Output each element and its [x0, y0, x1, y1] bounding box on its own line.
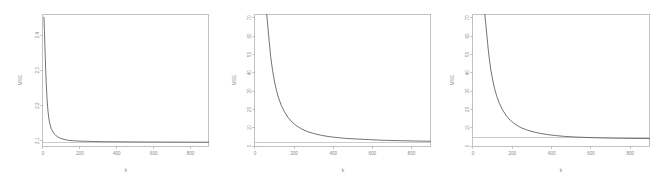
plot-panel-1: 2.12.22.32.4 0200400600800 MSE k: [0, 0, 219, 185]
x-tick-label: 400: [330, 151, 338, 156]
x-tick-label: 400: [113, 151, 121, 156]
plot-svg-2: 010203040506070 0200400600800 MSE k: [219, 0, 438, 185]
y-tick-label: 30: [248, 88, 253, 94]
x-tick-label: 0: [42, 151, 45, 156]
y-tick-label: 70: [248, 15, 253, 21]
plot-1-frame: [43, 14, 209, 146]
y-tick-label: 20: [465, 106, 470, 112]
plot-2-y-axis-label: MSE: [231, 74, 237, 85]
x-tick-label: 400: [548, 151, 556, 156]
plot-3-frame: [473, 14, 650, 146]
plot-3-curve: [484, 14, 649, 139]
plot-3-y-ticks: 010203040506070: [465, 15, 473, 148]
y-tick-label: 40: [248, 70, 253, 76]
plot-1-x-ticks: 0200400600800: [42, 146, 195, 157]
plot-1-y-axis-label: MSE: [17, 74, 23, 85]
y-tick-label: 50: [248, 51, 253, 57]
y-tick-label: 0: [248, 144, 253, 147]
plot-2-curve: [267, 14, 431, 141]
y-tick-label: 2.4: [35, 31, 40, 38]
y-tick-label: 20: [248, 106, 253, 112]
plot-1-curve: [44, 17, 209, 142]
y-tick-label: 2.1: [35, 137, 40, 144]
plot-1-x-axis-label: k: [125, 167, 128, 173]
plot-2-x-axis-label: k: [342, 167, 345, 173]
y-tick-label: 40: [465, 70, 470, 76]
y-tick-label: 10: [248, 125, 253, 131]
y-tick-label: 60: [465, 33, 470, 39]
y-tick-label: 60: [248, 33, 253, 39]
plot-svg-1: 2.12.22.32.4 0200400600800 MSE k: [0, 0, 219, 185]
figure-container: 2.12.22.32.4 0200400600800 MSE k 0102030…: [0, 0, 658, 185]
plot-1-y-ticks: 2.12.22.32.4: [35, 31, 43, 143]
plot-3-y-axis-label: MSE: [449, 74, 455, 85]
x-tick-label: 600: [369, 151, 377, 156]
x-tick-label: 800: [187, 151, 195, 156]
plot-2-frame: [255, 14, 431, 146]
x-tick-label: 800: [626, 151, 634, 156]
y-tick-label: 70: [465, 15, 470, 21]
plot-panel-3: 010203040506070 0200400600800 MSE k: [439, 0, 658, 185]
x-tick-label: 0: [471, 151, 474, 156]
plot-2-y-ticks: 010203040506070: [248, 15, 256, 148]
plot-panel-2: 010203040506070 0200400600800 MSE k: [219, 0, 438, 185]
plot-svg-3: 010203040506070 0200400600800 MSE k: [439, 0, 658, 185]
x-tick-label: 600: [150, 151, 158, 156]
x-tick-label: 200: [508, 151, 516, 156]
y-tick-label: 2.2: [35, 102, 40, 109]
y-tick-label: 0: [465, 144, 470, 147]
plot-3-x-axis-label: k: [559, 167, 562, 173]
x-tick-label: 200: [291, 151, 299, 156]
plot-2-x-ticks: 0200400600800: [254, 146, 416, 157]
y-tick-label: 10: [465, 125, 470, 131]
x-tick-label: 800: [408, 151, 416, 156]
y-tick-label: 30: [465, 88, 470, 94]
x-tick-label: 0: [254, 151, 257, 156]
y-tick-label: 2.3: [35, 67, 40, 74]
plot-3-x-ticks: 0200400600800: [471, 146, 634, 157]
y-tick-label: 50: [465, 51, 470, 57]
x-tick-label: 600: [587, 151, 595, 156]
x-tick-label: 200: [76, 151, 84, 156]
